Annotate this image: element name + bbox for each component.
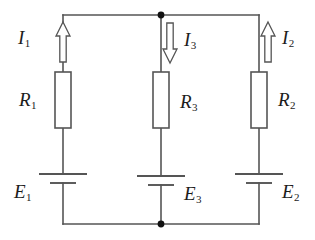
circuit-diagram: I1 I3 I2 R1 R3 R2 E1 E3 E2	[0, 0, 315, 240]
junction-dot-top	[158, 12, 165, 19]
emf-label-e3: E3	[184, 184, 201, 203]
emf-label-e2: E2	[282, 182, 299, 201]
circuit-schematic-graphics	[0, 0, 315, 240]
resistor-label-r2-subscript: 2	[290, 99, 296, 111]
resistor-label-r1-subscript: 1	[31, 99, 37, 111]
emf-label-e1: E1	[14, 182, 31, 201]
current-label-i1-subscript: 1	[25, 37, 31, 49]
resistor-label-r3: R3	[180, 92, 197, 111]
emf-label-e2-subscript: 2	[294, 191, 300, 203]
resistor-label-r3-subscript: 3	[192, 101, 198, 113]
current-arrow-up-i1	[56, 22, 70, 62]
resistor-label-r2: R2	[278, 90, 295, 109]
resistor-symbol-r2	[251, 72, 267, 128]
resistor-label-r1: R1	[19, 90, 36, 109]
emf-label-e3-subscript: 3	[196, 193, 202, 205]
current-label-i2: I2	[282, 28, 294, 47]
junction-dot-bottom	[158, 221, 165, 228]
current-label-i2-subscript: 2	[289, 37, 295, 49]
current-label-i3: I3	[184, 30, 196, 49]
current-arrow-up-i2	[261, 22, 275, 62]
resistor-symbol-r1	[55, 72, 71, 128]
emf-label-e1-subscript: 1	[26, 191, 32, 203]
resistor-symbol-r3	[153, 72, 169, 128]
current-label-i3-subscript: 3	[191, 39, 197, 51]
current-arrow-down-i3	[163, 23, 177, 63]
current-label-i1: I1	[18, 28, 30, 47]
